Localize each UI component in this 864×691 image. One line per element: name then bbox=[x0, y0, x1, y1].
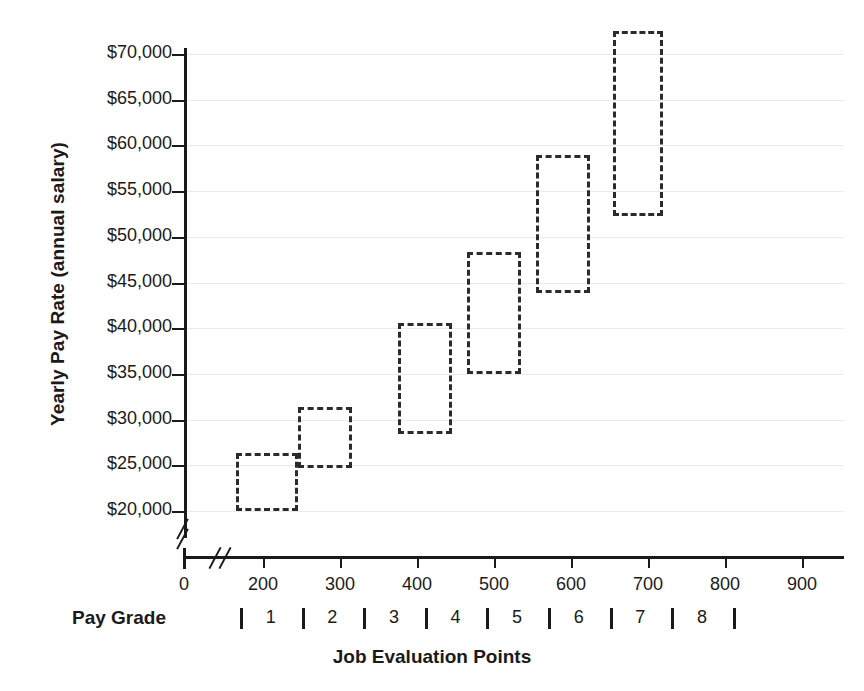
x-tick-mark bbox=[340, 556, 342, 568]
pay-grade-label: 3 bbox=[374, 607, 414, 628]
x-axis-break-icon bbox=[203, 541, 237, 573]
pay-grade-separator bbox=[671, 608, 674, 629]
x-tick-label: 600 bbox=[536, 574, 606, 595]
x-tick-label: 200 bbox=[228, 574, 298, 595]
y-tick-label: $70,000 bbox=[62, 42, 172, 63]
y-tick-label: $60,000 bbox=[62, 133, 172, 154]
x-tick-label: 400 bbox=[382, 574, 452, 595]
y-tick-label: $50,000 bbox=[62, 225, 172, 246]
pay-grade-label: 6 bbox=[559, 607, 599, 628]
pay-grade-separator bbox=[486, 608, 489, 629]
x-tick-label: 500 bbox=[459, 574, 529, 595]
x-tick-mark bbox=[725, 556, 727, 568]
y-tick-label: $25,000 bbox=[62, 453, 172, 474]
x-tick-label: 900 bbox=[767, 574, 837, 595]
y-tick-label: $40,000 bbox=[62, 316, 172, 337]
pay-range-box bbox=[236, 453, 298, 511]
pay-range-box bbox=[613, 31, 663, 216]
gridline bbox=[187, 420, 844, 421]
y-tick-label: $45,000 bbox=[62, 271, 172, 292]
pay-grade-separator bbox=[548, 608, 551, 629]
x-axis-line bbox=[183, 556, 844, 559]
pay-grade-axis-title: Pay Grade bbox=[72, 607, 166, 629]
x-tick-mark bbox=[417, 556, 419, 568]
x-tick-label: 300 bbox=[305, 574, 375, 595]
pay-grade-label: 1 bbox=[251, 607, 291, 628]
gridline bbox=[187, 100, 844, 101]
pay-grade-separator bbox=[363, 608, 366, 629]
chart-figure: Yearly Pay Rate (annual salary) $70,000$… bbox=[0, 0, 864, 691]
y-tick-label: $55,000 bbox=[62, 179, 172, 200]
y-tick-label: $65,000 bbox=[62, 88, 172, 109]
x-tick-mark bbox=[802, 556, 804, 568]
pay-grade-axis: Pay Grade 12345678 bbox=[0, 605, 864, 637]
pay-grade-label: 7 bbox=[620, 607, 660, 628]
pay-grade-separator bbox=[610, 608, 613, 629]
x-tick-label: 0 bbox=[149, 574, 219, 595]
pay-range-box bbox=[298, 407, 352, 468]
pay-grade-separator bbox=[240, 608, 243, 629]
gridline bbox=[187, 374, 844, 375]
gridline bbox=[187, 237, 844, 238]
pay-grade-label: 2 bbox=[312, 607, 352, 628]
pay-grade-separator bbox=[733, 608, 736, 629]
gridline bbox=[187, 191, 844, 192]
x-tick-label: 800 bbox=[690, 574, 760, 595]
x-tick-label: 700 bbox=[613, 574, 683, 595]
x-tick-mark bbox=[263, 556, 265, 568]
pay-grade-separator bbox=[302, 608, 305, 629]
pay-grade-label: 4 bbox=[436, 607, 476, 628]
y-axis-break-icon bbox=[168, 519, 202, 553]
gridline bbox=[187, 511, 844, 512]
pay-grade-label: 5 bbox=[497, 607, 537, 628]
gridline bbox=[187, 145, 844, 146]
pay-range-box bbox=[398, 323, 452, 435]
pay-range-box bbox=[536, 155, 590, 293]
y-tick-label: $20,000 bbox=[62, 499, 172, 520]
pay-grade-separator bbox=[425, 608, 428, 629]
y-tick-label: $35,000 bbox=[62, 362, 172, 383]
x-tick-mark bbox=[494, 556, 496, 568]
x-tick-mark bbox=[648, 556, 650, 568]
x-tick-mark bbox=[571, 556, 573, 568]
pay-grade-label: 8 bbox=[682, 607, 722, 628]
gridline bbox=[187, 54, 844, 55]
pay-range-box bbox=[467, 252, 521, 374]
y-axis-line bbox=[184, 48, 187, 538]
x-axis-title: Job Evaluation Points bbox=[0, 646, 864, 668]
y-tick-label: $30,000 bbox=[62, 408, 172, 429]
